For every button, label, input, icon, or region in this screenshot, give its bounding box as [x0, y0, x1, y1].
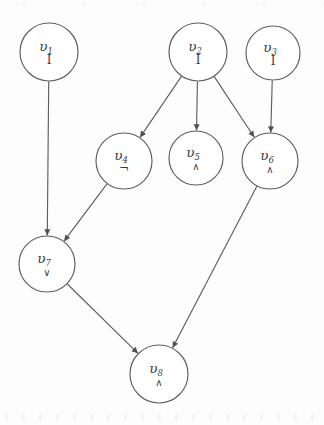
node-operator-label: I [271, 54, 276, 68]
graph-node-v8[interactable]: υ8∧ [130, 345, 188, 403]
node-operator-label: I [196, 53, 201, 67]
node-operator-label: ∧ [266, 164, 273, 175]
graph-node-v7[interactable]: υ7∨ [19, 236, 75, 292]
graph-node-v3[interactable]: υ3I [246, 26, 300, 80]
node-operator-label: I [47, 53, 52, 67]
node-operator-label: ∧ [155, 377, 162, 388]
graph-node-v1[interactable]: υ1I [20, 23, 78, 81]
graph-node-v4[interactable]: υ4¬ [96, 133, 152, 189]
graph-node-v2[interactable]: υ2I [169, 23, 227, 81]
logic-graph-figure: υ1Iυ2Iυ3Iυ4¬υ5∧υ6∧υ7∨υ8∧ [0, 0, 324, 425]
graph-node-v5[interactable]: υ5∧ [169, 131, 223, 185]
node-operator-label: ¬ [119, 162, 129, 176]
graph-node-v6[interactable]: υ6∧ [242, 133, 298, 189]
node-operator-label: ∨ [43, 267, 50, 278]
node-operator-label: ∧ [192, 161, 199, 172]
